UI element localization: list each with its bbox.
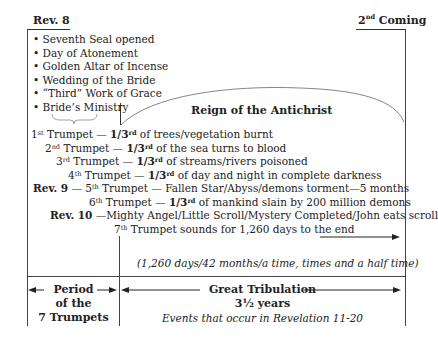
- trumpet-word: Trumpet —: [103, 196, 169, 208]
- trumpet-num: — 5: [68, 182, 92, 194]
- trumpet-2: 2nd Trumpet — 1/3rd of the sea turns to …: [45, 142, 286, 155]
- second-coming-header: 2nd Coming: [358, 14, 426, 27]
- trumpet-sup: th: [92, 183, 99, 191]
- bullet-text: “Third” Work of Grace: [43, 87, 162, 99]
- fraction-sup: rd: [155, 156, 163, 164]
- event-list: • Seventh Seal opened • Day of Atonement…: [33, 33, 168, 115]
- period-line-1: Period: [28, 283, 119, 297]
- trumpet-1: 1st Trumpet — 1/3rd of trees/vegetation …: [31, 128, 273, 141]
- trumpet-num: 6: [89, 196, 96, 208]
- fraction-sup: rd: [129, 129, 137, 137]
- trumpet-word: Trumpet —: [70, 155, 136, 167]
- trumpet-text: of streams/rivers poisoned: [163, 155, 308, 167]
- fraction: 1/3: [110, 128, 128, 140]
- bullet-text: Day of Atonement: [43, 47, 139, 59]
- trumpet-word: Trumpet —: [82, 169, 148, 181]
- trumpet-5: Rev. 9 — 5th Trumpet — Fallen Star/Abyss…: [33, 182, 409, 195]
- trumpet-text: of mankind slain by 200 million demons: [195, 196, 410, 208]
- trumpet-6: 6th Trumpet — 1/3rd of mankind slain by …: [89, 196, 411, 209]
- trumpet-word: Trumpet — Fallen Star/Abyss/demons torme…: [99, 182, 409, 194]
- rev-10-text: —Mighty Angel/Little Scroll/Mystery Comp…: [92, 209, 438, 221]
- trumpet-sup: th: [75, 170, 82, 178]
- second-coming-word: Coming: [379, 14, 427, 27]
- fraction: 1/3: [136, 155, 154, 167]
- time-note: (1,260 days/42 months/a time, times and …: [137, 257, 419, 270]
- bullet-text: Seventh Seal opened: [43, 33, 155, 45]
- fraction: 1/3: [148, 169, 166, 181]
- period-of-trumpets: Period of the 7 Trumpets: [28, 283, 119, 325]
- trumpet-sup: rd: [63, 156, 70, 164]
- fraction-sup: rd: [145, 143, 153, 151]
- great-tribulation-years: 3½ years: [120, 297, 405, 311]
- trumpet-sup: nd: [52, 143, 60, 151]
- bullet-text: Wedding of the Bride: [43, 74, 156, 86]
- list-item: • “Third” Work of Grace: [33, 87, 168, 101]
- period-line-2: of the: [28, 297, 119, 311]
- trumpet-sup: th: [96, 197, 103, 205]
- trumpet-num: 4: [68, 169, 75, 181]
- rev-9-label: Rev. 9: [33, 182, 68, 194]
- rev-10-line: Rev. 10 —Mighty Angel/Little Scroll/Myst…: [50, 209, 438, 222]
- trumpet-text: of day and night in complete darkness: [174, 169, 381, 181]
- trumpet-4: 4th Trumpet — 1/3rd of day and night in …: [68, 169, 382, 182]
- period-line-3: 7 Trumpets: [28, 311, 119, 325]
- fraction-sup: rd: [187, 197, 195, 205]
- list-item: • Day of Atonement: [33, 47, 168, 61]
- trumpet-num: 1: [31, 128, 38, 140]
- list-item: • Bride’s Ministry: [33, 101, 168, 115]
- trumpet-sup: th: [121, 224, 128, 232]
- trumpet-3: 3rd Trumpet — 1/3rd of streams/rivers po…: [56, 155, 308, 168]
- list-item: • Seventh Seal opened: [33, 33, 168, 47]
- rev-8-header: Rev. 8: [33, 14, 70, 27]
- trumpet-7: 7th Trumpet sounds for 1,260 days to the…: [114, 223, 354, 236]
- rev-10-label: Rev. 10: [50, 209, 92, 221]
- second-coming-sup: nd: [366, 13, 375, 21]
- great-tribulation-title: Great Tribulation: [120, 283, 405, 297]
- great-tribulation-note: Events that occur in Revelation 11-20: [120, 311, 405, 325]
- trumpet-text: of trees/vegetation burnt: [137, 128, 274, 140]
- trumpet-num: 2: [45, 142, 52, 154]
- bullet-text: Golden Altar of Incense: [43, 60, 169, 72]
- fraction: 1/3: [126, 142, 144, 154]
- trumpet-word: Trumpet sounds for 1,260 days to the end: [128, 223, 355, 235]
- bullet-text: Bride’s Ministry: [43, 101, 129, 113]
- trumpet-word: Trumpet —: [44, 128, 110, 140]
- trumpet-text: of the sea turns to blood: [153, 142, 286, 154]
- great-tribulation-block: Great Tribulation 3½ years Events that o…: [120, 283, 405, 325]
- trumpet-num: 3: [56, 155, 63, 167]
- trumpet-sup: st: [38, 129, 44, 137]
- trumpet-num: 7: [114, 223, 121, 235]
- trumpet-word: Trumpet —: [60, 142, 126, 154]
- reign-of-antichrist-label: Reign of the Antichrist: [191, 104, 332, 117]
- list-item: • Wedding of the Bride: [33, 74, 168, 88]
- list-item: • Golden Altar of Incense: [33, 60, 168, 74]
- fraction-sup: rd: [166, 170, 174, 178]
- fraction: 1/3: [169, 196, 187, 208]
- second-coming-number: 2: [358, 14, 366, 27]
